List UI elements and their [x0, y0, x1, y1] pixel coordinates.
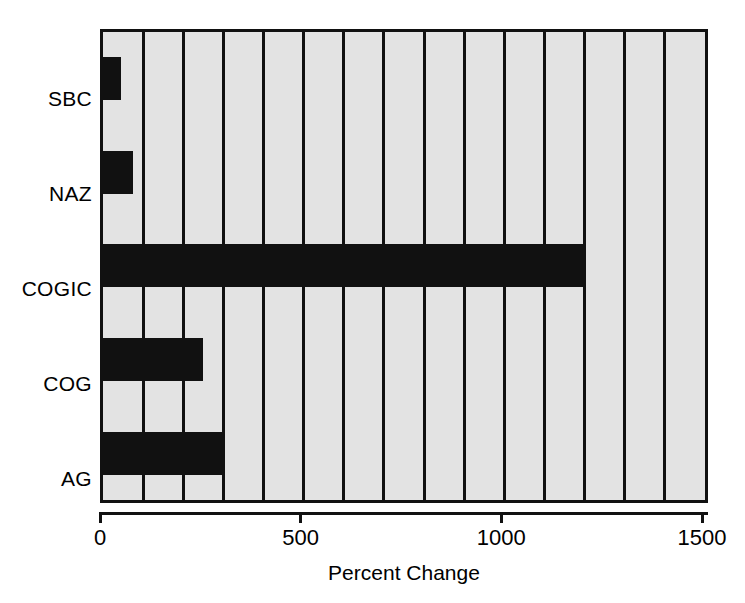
x-tick-500: [299, 512, 302, 523]
bar-naz[interactable]: [103, 151, 133, 194]
x-tick-label-0: 0: [60, 527, 140, 549]
y-axis-label-naz: NAZ: [0, 183, 92, 204]
x-axis-title: Percent Change: [100, 561, 708, 585]
x-tick-label-1000: 1000: [461, 527, 541, 549]
y-axis-category-labels: SBC NAZ COGIC COG AG: [0, 29, 92, 503]
y-axis-label-sbc: SBC: [0, 88, 92, 109]
y-axis-label-ag: AG: [0, 468, 92, 489]
bar-cogic[interactable]: [103, 244, 585, 287]
x-tick-label-1500: 1500: [662, 527, 742, 549]
bar-sbc[interactable]: [103, 57, 121, 100]
x-axis-line: [100, 512, 708, 515]
bar-row-ag: [103, 406, 705, 500]
x-tick-1500: [701, 512, 704, 523]
plot-area: [100, 29, 708, 503]
bar-chart-figure: SBC NAZ COGIC COG AG Percent Change 0500…: [0, 0, 745, 603]
bar-row-cogic: [103, 219, 705, 313]
x-tick-1000: [500, 512, 503, 523]
y-axis-label-cogic: COGIC: [0, 278, 92, 299]
bar-row-cog: [103, 313, 705, 407]
x-tick-0: [99, 512, 102, 523]
bar-ag[interactable]: [103, 432, 223, 475]
bar-row-naz: [103, 126, 705, 220]
x-tick-label-500: 500: [261, 527, 341, 549]
bar-cog[interactable]: [103, 338, 203, 381]
y-axis-label-cog: COG: [0, 373, 92, 394]
bar-row-sbc: [103, 32, 705, 126]
